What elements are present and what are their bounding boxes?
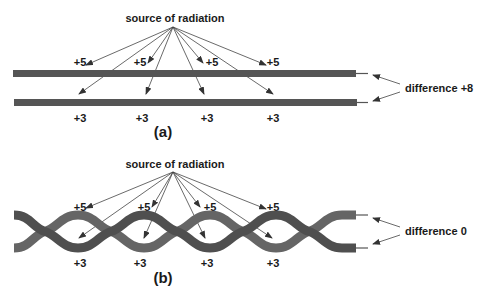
panel-a-parallel-wires: source of radiation +5 +5 +5 +5 +3 +3 +3… [13,12,473,140]
panel-b-twisted-pair: source of radiation +5 +5 +5 +5 +3 +3 +3… [14,158,467,286]
panel-b-bottom-label-2: +3 [134,257,147,269]
panel-a-top-label-3: +5 [206,56,219,68]
panel-a-top-label-1: +5 [74,56,87,68]
panel-a-caption: (a) [154,123,172,140]
panel-a-radiation-arrows [79,27,273,94]
panel-b-bottom-label-4: +3 [267,257,280,269]
panel-a-top-wire [13,70,356,77]
panel-a-bottom-label-2: +3 [136,112,149,124]
panel-b-difference-label: difference 0 [405,225,467,237]
panel-a-bottom-wire [14,99,357,106]
panel-b-source-label: source of radiation [125,158,224,170]
panel-a-source-label: source of radiation [125,12,224,24]
diagram-canvas: source of radiation +5 +5 +5 +5 +3 +3 +3… [0,0,483,298]
panel-a-bottom-label-3: +3 [201,112,214,124]
panel-b-difference-arrows [373,218,400,244]
panel-b-bottom-label-1: +3 [74,257,87,269]
panel-a-top-label-4: +5 [267,56,280,68]
panel-a-bottom-label-1: +3 [74,112,87,124]
panel-b-bottom-label-3: +3 [201,257,214,269]
panel-a-difference-arrows [373,75,400,101]
panel-b-caption: (b) [153,269,172,286]
panel-a-top-label-2: +5 [134,56,147,68]
panel-a-bottom-label-4: +3 [267,112,280,124]
panel-a-difference-label: difference +8 [405,82,473,94]
